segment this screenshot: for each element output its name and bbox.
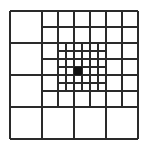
multiresolution-grid-diagram (0, 0, 148, 147)
highlighted-target-cell (74, 67, 82, 75)
